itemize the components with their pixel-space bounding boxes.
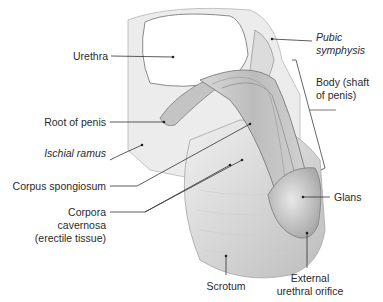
label-corpora-line3: (erectile tissue)	[0, 232, 106, 244]
label-body-line1: Body (shaft	[316, 76, 369, 88]
label-corpora-line1: Corpora	[0, 206, 106, 218]
label-corpus-spongiosum: Corpus spongiosum	[0, 180, 106, 192]
label-orifice-line1: External	[270, 272, 350, 284]
label-urethra: Urethra	[40, 50, 108, 62]
label-scrotum: Scrotum	[196, 280, 256, 292]
label-orifice-line2: urethral orifice	[270, 285, 350, 297]
label-body-line2: of penis)	[316, 89, 356, 101]
label-pubic-symphysis-line2: symphysis	[316, 44, 365, 56]
label-glans: Glans	[334, 191, 361, 203]
label-ischial-ramus: Ischial ramus	[0, 147, 106, 159]
label-root-of-penis: Root of penis	[0, 116, 106, 128]
label-pubic-symphysis-line1: Pubic	[316, 31, 342, 43]
label-corpora-line2: cavernosa	[0, 219, 106, 231]
